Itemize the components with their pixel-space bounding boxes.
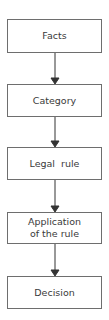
node-facts: Facts	[7, 19, 102, 53]
node-label: Facts	[42, 30, 66, 42]
node-legal-rule: Legal rule	[7, 147, 102, 180]
node-label: Decision	[34, 287, 74, 299]
node-label: Category	[33, 95, 76, 107]
node-label: Legal rule	[30, 158, 80, 170]
node-decision: Decision	[7, 276, 102, 309]
node-label: Application of the rule	[22, 216, 87, 240]
node-category: Category	[7, 84, 102, 117]
node-application: Application of the rule	[7, 212, 102, 244]
